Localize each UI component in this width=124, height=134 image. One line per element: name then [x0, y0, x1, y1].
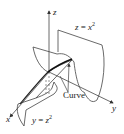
surface-label-y-eq-z2: y = z2	[32, 116, 52, 125]
eq-exp: 2	[92, 21, 95, 27]
eq-sign: =	[79, 22, 89, 32]
curve-pointer	[68, 64, 69, 92]
eq-exp: 2	[49, 114, 52, 120]
diagram: z y x z = x2 y = z2 Curve	[0, 0, 124, 134]
surfaces-drawing	[0, 0, 124, 134]
surface-label-z-eq-x2: z = x2	[75, 23, 95, 32]
eq-sign: =	[36, 115, 46, 125]
y-axis-label: y	[112, 104, 116, 113]
x-axis-label: x	[6, 115, 10, 124]
z-axis-label: z	[53, 8, 57, 17]
x-axis	[10, 72, 49, 117]
curve-label: Curve	[63, 91, 85, 100]
